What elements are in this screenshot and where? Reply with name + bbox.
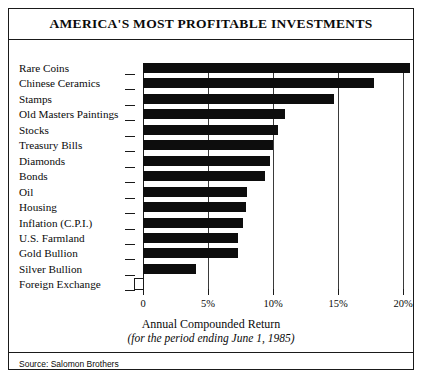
category-tick — [125, 275, 135, 276]
category-label: Stamps — [19, 93, 52, 105]
x-tick-label-20: 20% — [393, 298, 412, 309]
category-tick — [125, 120, 135, 121]
category-label: Old Masters Paintings — [19, 108, 118, 120]
category-tick — [125, 74, 135, 75]
gridline-15 — [338, 63, 339, 295]
category-tick — [125, 244, 135, 245]
category-label: Treasury Bills — [19, 139, 82, 151]
category-label: Foreign Exchange — [19, 278, 101, 290]
x-axis-label: Annual Compounded Return — [9, 317, 413, 332]
bar — [143, 264, 196, 274]
x-tick-label-5: 5% — [201, 298, 215, 309]
source-note: Source: Salomon Brothers — [19, 359, 119, 369]
bar — [143, 125, 278, 135]
chart-figure: AMERICA'S MOST PROFITABLE INVESTMENTS 05… — [8, 8, 414, 370]
bar — [143, 202, 246, 212]
category-tick — [125, 198, 135, 199]
category-label: Bonds — [19, 170, 48, 182]
category-label: Stocks — [19, 124, 49, 136]
category-label: Oil — [19, 186, 33, 198]
x-tick-label-15: 15% — [328, 298, 347, 309]
category-tick — [125, 105, 135, 106]
category-label: Inflation (C.P.I.) — [19, 217, 92, 229]
bar — [143, 233, 238, 243]
chart-title-band: AMERICA'S MOST PROFITABLE INVESTMENTS — [9, 9, 413, 40]
category-label: Chinese Ceramics — [19, 77, 100, 89]
bar — [143, 156, 270, 166]
category-tick — [125, 290, 135, 291]
category-tick — [125, 213, 135, 214]
gridline-20 — [403, 63, 404, 295]
x-axis-sublabel: (for the period ending June 1, 1985) — [9, 332, 413, 344]
category-tick — [125, 167, 135, 168]
category-label: Housing — [19, 201, 57, 213]
category-tick — [125, 182, 135, 183]
category-label: Diamonds — [19, 155, 65, 167]
category-tick — [125, 151, 135, 152]
category-label: Silver Bullion — [19, 263, 82, 275]
bar — [134, 278, 144, 290]
x-tick-label-0: 0 — [140, 298, 145, 309]
category-tick — [125, 229, 135, 230]
category-label: Gold Bullion — [19, 247, 78, 259]
bar — [143, 63, 410, 73]
bar — [143, 218, 243, 228]
x-tick-label-10: 10% — [263, 298, 282, 309]
x-tick-15 — [338, 289, 339, 295]
bar — [143, 140, 273, 150]
bar — [143, 187, 247, 197]
x-tick-10 — [273, 289, 274, 295]
bar — [143, 109, 285, 119]
category-label: Rare Coins — [19, 62, 69, 74]
bar — [143, 94, 334, 104]
bar — [143, 248, 238, 258]
x-tick-5 — [208, 289, 209, 295]
source-divider — [9, 352, 413, 353]
category-tick — [125, 259, 135, 260]
category-label: U.S. Farmland — [19, 232, 85, 244]
category-tick — [125, 136, 135, 137]
page-title: AMERICA'S MOST PROFITABLE INVESTMENTS — [49, 16, 372, 32]
bar — [143, 78, 374, 88]
category-tick — [125, 89, 135, 90]
x-tick-20 — [403, 289, 404, 295]
plot-area: 05%10%15%20% Rare CoinsChinese CeramicsS… — [9, 39, 413, 369]
bar — [143, 171, 265, 181]
